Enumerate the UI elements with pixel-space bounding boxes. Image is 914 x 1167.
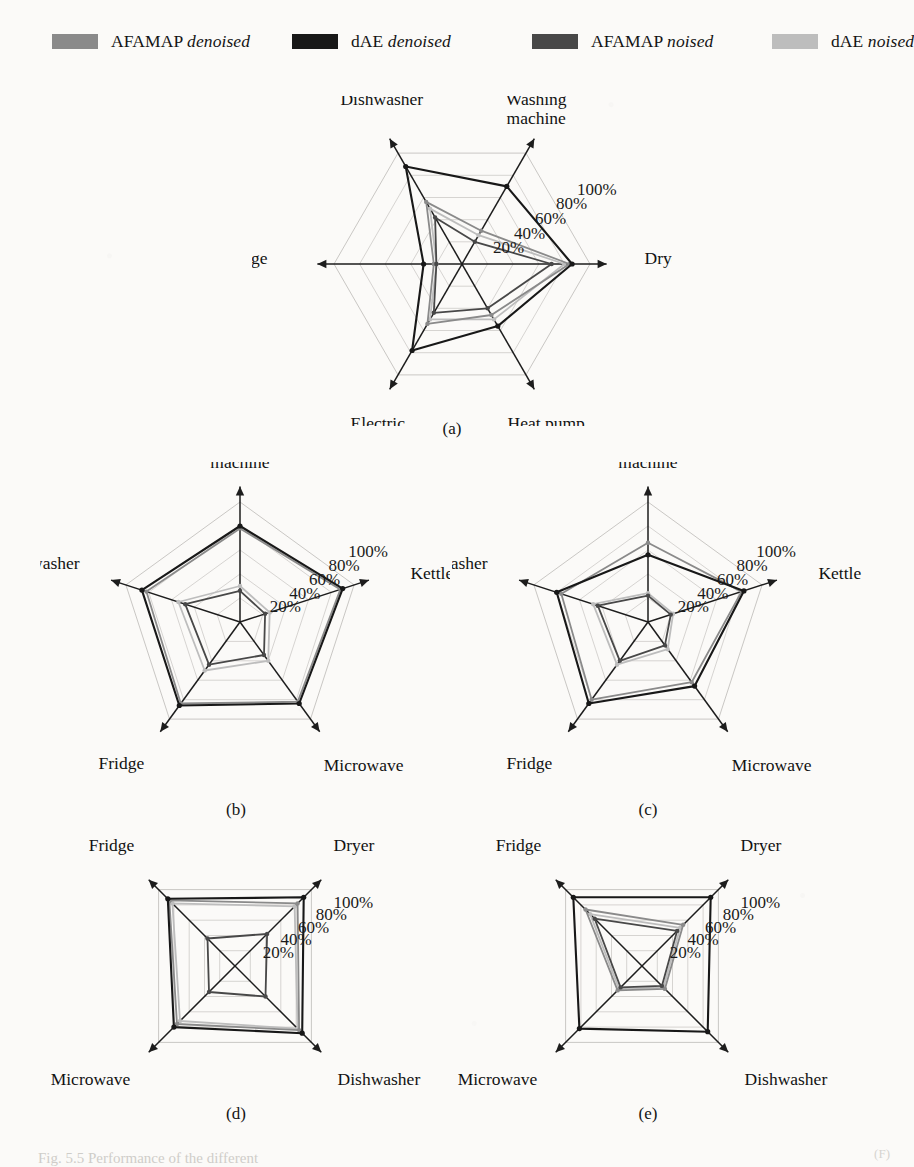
axis-label-d-3: Fridge	[89, 835, 135, 855]
legend-item-3: dAE noised	[772, 31, 914, 52]
subfigure-caption-e: (e)	[608, 1104, 688, 1124]
axis-label-b-0: Washingmachine	[210, 462, 271, 472]
axis-label-b-3: Fridge	[98, 753, 144, 773]
axis-label-e-1: Dishwasher	[745, 1069, 828, 1089]
r-tick-labels-e: 20%40%60%80%100%	[670, 893, 780, 962]
axis-label-d-1: Dishwasher	[338, 1069, 421, 1089]
legend-swatch-dae-noised	[772, 34, 818, 49]
r-tick-e-100: 100%	[741, 893, 781, 912]
axis-spokes-c	[519, 486, 777, 731]
legend-swatch-dae-denoised	[292, 34, 338, 49]
axis-labels-b: WashingmachineKettleMicrowaveFridgeDishw…	[40, 462, 450, 775]
legend-label-3: dAE noised	[831, 31, 914, 52]
axis-label-d-2: Microwave	[51, 1069, 131, 1089]
axis-label-a-2: Heat pump	[508, 413, 586, 426]
axis-label-d-0: Dryer	[334, 835, 375, 855]
legend-swatch-afamap-denoised	[52, 34, 98, 49]
subfigure-caption-d: (d)	[196, 1104, 276, 1124]
legend-swatch-afamap-noised	[532, 34, 578, 49]
subfigure-caption-b: (b)	[196, 800, 276, 820]
page-mark: (F)	[874, 1146, 890, 1162]
axis-label-c-2: Microwave	[732, 755, 812, 775]
legend-label-2: AFAMAP noised	[591, 31, 713, 52]
r-tick-a-100: 100%	[577, 180, 617, 199]
r-tick-b-100: 100%	[348, 542, 388, 561]
axis-label-c-1: Kettle	[818, 563, 861, 583]
axis-label-b-4: Dishwasher	[40, 553, 80, 573]
legend-item-0: AFAMAP denoised	[52, 31, 250, 52]
radar-chart-a: 20%40%60%80%100%WashingmachineDryerHeat …	[252, 96, 672, 426]
radar-svg-d: 20%40%60%80%100%DryerDishwasherMicrowave…	[40, 818, 450, 1118]
axis-label-a-3: Electricoven	[351, 413, 406, 426]
radar-svg-a: 20%40%60%80%100%WashingmachineDryerHeat …	[252, 96, 672, 426]
axis-label-e-3: Fridge	[496, 835, 542, 855]
axis-labels-a: WashingmachineDryerHeat pumpElectricoven…	[252, 96, 672, 426]
axis-label-a-1: Dryer	[645, 248, 673, 268]
radar-chart-d: 20%40%60%80%100%DryerDishwasherMicrowave…	[40, 818, 450, 1118]
axis-label-e-2: Microwave	[458, 1069, 538, 1089]
radar-chart-e: 20%40%60%80%100%DryerDishwasherMicrowave…	[452, 818, 862, 1118]
axis-labels-d: DryerDishwasherMicrowaveFridge	[51, 835, 421, 1088]
axis-label-a-4: Fridge	[252, 248, 268, 268]
radar-chart-b: 20%40%60%80%100%WashingmachineKettleMicr…	[40, 462, 450, 792]
legend-label-0: AFAMAP denoised	[111, 31, 250, 52]
axis-label-c-3: Fridge	[506, 753, 552, 773]
r-tick-labels-b: 20%40%60%80%100%	[270, 542, 388, 616]
axis-label-c-4: Dishwasher	[452, 553, 488, 573]
legend-item-2: AFAMAP noised	[532, 31, 713, 52]
radar-svg-c: 20%40%60%80%100%WashingmachineKettleMicr…	[452, 462, 862, 792]
axis-label-e-0: Dryer	[741, 835, 782, 855]
figure-caption: Fig. 5.5 Performance of the different	[38, 1150, 258, 1167]
subfigure-caption-a: (a)	[412, 419, 492, 439]
r-tick-c-100: 100%	[756, 542, 796, 561]
axis-label-b-1: Kettle	[410, 563, 450, 583]
series-b-2	[183, 589, 267, 667]
axis-label-a-5: Dishwasher	[340, 96, 423, 109]
legend-item-1: dAE denoised	[292, 31, 451, 52]
legend: AFAMAP denoiseddAE denoisedAFAMAP noised…	[0, 24, 912, 58]
radar-svg-e: 20%40%60%80%100%DryerDishwasherMicrowave…	[452, 818, 862, 1118]
axis-label-a-0: Washingmachine	[506, 96, 567, 128]
axis-label-c-0: Washingmachine	[618, 462, 679, 472]
radar-chart-c: 20%40%60%80%100%WashingmachineKettleMicr…	[452, 462, 862, 792]
axis-spokes-e	[556, 880, 729, 1053]
axis-spokes-b	[111, 486, 369, 731]
radar-svg-b: 20%40%60%80%100%WashingmachineKettleMicr…	[40, 462, 450, 792]
series-b-0	[144, 526, 342, 706]
subfigure-caption-c: (c)	[608, 800, 688, 820]
legend-label-1: dAE denoised	[351, 31, 451, 52]
r-tick-d-100: 100%	[334, 893, 374, 912]
axis-label-b-2: Microwave	[324, 755, 404, 775]
axis-labels-e: DryerDishwasherMicrowaveFridge	[458, 835, 828, 1088]
